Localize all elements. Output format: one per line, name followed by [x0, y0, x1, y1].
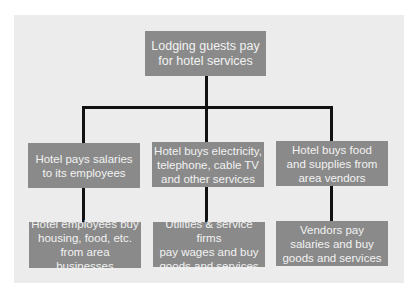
node-vendors-pay: Vendors pay salaries and buy goods and s…	[276, 221, 388, 266]
node-hotel-pays-salaries: Hotel pays salaries to its employees	[28, 143, 140, 188]
node-employees-buy: Hotel employees buy housing, food, etc. …	[29, 222, 141, 268]
node-utilities-pay: Utilities & service firms pay wages and …	[153, 222, 265, 267]
node-hotel-buys-services: Hotel buys electricity, telephone, cable…	[152, 142, 264, 187]
diagram-canvas: Lodging guests pay for hotel services Ho…	[0, 0, 415, 296]
connector-left-down	[82, 106, 85, 143]
connector-center-down	[205, 106, 208, 142]
node-hotel-buys-food: Hotel buys food and supplies from area v…	[276, 141, 388, 186]
connector-root-down	[205, 76, 208, 108]
connector-right-child	[330, 186, 333, 221]
connector-right-down	[330, 106, 333, 141]
root-node: Lodging guests pay for hotel services	[145, 31, 266, 76]
